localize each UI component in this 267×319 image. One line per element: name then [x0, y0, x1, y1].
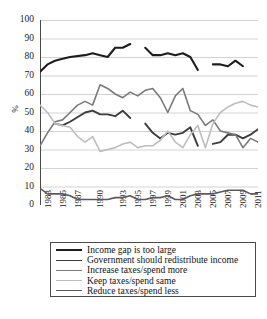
- series-line-0: [145, 48, 198, 70]
- x-axis-tick-labels: 1983198519871990199319951997199920012003…: [40, 208, 258, 238]
- legend-label: Increase taxes/spend more: [87, 265, 187, 275]
- line-chart-svg: [40, 20, 258, 205]
- y-axis-tick-label: 70: [8, 71, 34, 81]
- y-axis-tick-label: 0: [8, 200, 34, 210]
- legend-label: Reduce taxes/spend less: [87, 286, 179, 296]
- legend-label: Keep taxes/spend same: [87, 276, 176, 286]
- legend-item[interactable]: Reduce taxes/spend less: [51, 286, 255, 296]
- y-axis-tick-label: 50: [8, 108, 34, 118]
- series-line-4: [40, 188, 258, 199]
- legend-swatch-icon: [56, 260, 82, 261]
- y-axis-tick-label: 100: [8, 15, 34, 25]
- legend-swatch-icon: [56, 280, 82, 281]
- legend-item[interactable]: Keep taxes/spend same: [51, 276, 255, 286]
- legend-item[interactable]: Increase taxes/spend more: [51, 265, 255, 275]
- y-axis-tick-label: 80: [8, 52, 34, 62]
- legend-swatch-icon: [56, 270, 82, 271]
- chart-figure: % 0102030405060708090100 198319851987199…: [0, 0, 267, 319]
- legend-swatch-icon: [56, 249, 82, 251]
- y-axis-tick-label: 10: [8, 182, 34, 192]
- y-axis-tick-label: 60: [8, 89, 34, 99]
- series-line-0: [40, 44, 130, 72]
- legend-label: Government should redistribute income: [87, 255, 238, 265]
- chart-legend: Income gap is too largeGovernment should…: [50, 242, 256, 297]
- legend-label: Income gap is too large: [87, 245, 176, 255]
- y-axis-tick-label: 30: [8, 145, 34, 155]
- legend-swatch-icon: [56, 290, 82, 291]
- plot-area: [40, 20, 258, 205]
- y-axis-tick-label: 90: [8, 34, 34, 44]
- y-axis-tick-label: 40: [8, 126, 34, 136]
- series-line-0: [213, 61, 243, 67]
- legend-item[interactable]: Government should redistribute income: [51, 255, 255, 265]
- y-axis-tick-label: 20: [8, 163, 34, 173]
- legend-item[interactable]: Income gap is too large: [51, 245, 255, 255]
